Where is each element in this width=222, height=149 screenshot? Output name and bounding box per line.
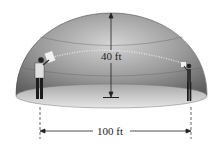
- width-label: 100 ft: [97, 125, 123, 137]
- height-label: 40 ft: [101, 50, 121, 62]
- dome-diagram: 40 ft 100 ft: [0, 0, 222, 149]
